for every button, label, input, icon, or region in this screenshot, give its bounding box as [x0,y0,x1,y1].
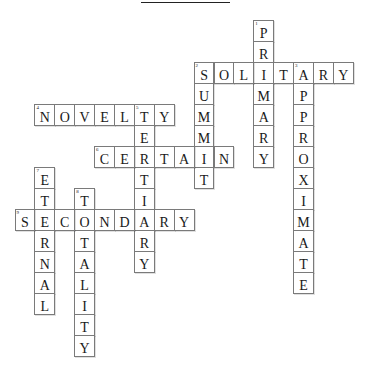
grid-cell[interactable]: E [34,209,55,231]
grid-cell[interactable]: V [74,104,95,126]
grid-cell[interactable]: 9S [15,209,36,231]
grid-cell[interactable]: E [114,146,135,168]
cell-letter: L [234,67,253,83]
cell-letter: L [35,298,54,314]
cell-letter: A [254,109,273,125]
cell-letter: T [294,256,313,272]
grid-cell[interactable]: Y [74,335,95,357]
grid-cell[interactable]: O [293,146,314,168]
grid-cell[interactable]: D [114,209,135,231]
grid-cell[interactable]: R [253,125,274,147]
cell-letter: R [135,151,154,167]
grid-cell[interactable]: 4N [34,104,55,126]
cell-letter: M [195,130,214,146]
cell-letter: S [195,67,214,83]
cell-letter: L [75,277,94,293]
grid-cell[interactable]: U [194,83,215,105]
grid-cell[interactable]: I [74,293,95,315]
grid-cell[interactable]: E [293,272,314,294]
cell-letter: E [294,277,313,293]
grid-cell[interactable]: A [74,251,95,273]
grid-cell[interactable]: O [214,62,235,84]
cell-letter: Y [75,340,94,356]
grid-cell[interactable]: N [94,209,115,231]
cell-letter: E [115,151,134,167]
cell-letter: A [175,151,194,167]
grid-cell[interactable]: N [214,146,235,168]
grid-cell[interactable]: T [273,62,294,84]
grid-cell[interactable]: L [114,104,135,126]
grid-cell[interactable]: X [293,167,314,189]
cell-letter: T [135,172,154,188]
cell-letter: O [55,109,74,125]
grid-cell[interactable]: R [253,41,274,63]
grid-cell[interactable]: R [293,125,314,147]
cell-letter: I [254,67,273,83]
grid-cell[interactable]: C [54,209,75,231]
grid-cell[interactable]: A [253,104,274,126]
grid-cell[interactable]: R [34,230,55,252]
grid-cell[interactable]: R [134,146,155,168]
grid-cell[interactable]: P [293,104,314,126]
grid-cell[interactable]: Y [253,146,274,168]
cell-letter: E [35,214,54,230]
grid-cell[interactable]: R [154,209,175,231]
cell-letter: P [294,88,313,104]
grid-cell[interactable]: 8T [74,188,95,210]
grid-cell[interactable]: Y [333,62,354,84]
cell-letter: I [195,151,214,167]
grid-cell[interactable]: M [194,125,215,147]
grid-cell[interactable]: L [233,62,254,84]
grid-cell[interactable]: M [253,83,274,105]
grid-cell[interactable]: T [293,251,314,273]
cell-letter: M [195,109,214,125]
cell-letter: N [215,151,234,167]
grid-cell[interactable]: T [74,314,95,336]
grid-cell[interactable]: R [134,230,155,252]
cell-letter: A [35,277,54,293]
grid-cell[interactable]: Y [134,251,155,273]
grid-cell[interactable]: I [293,188,314,210]
cell-letter: R [155,214,174,230]
grid-cell[interactable]: O [74,209,95,231]
grid-cell[interactable]: 7E [34,167,55,189]
cell-letter: T [75,319,94,335]
cell-letter: E [35,172,54,188]
grid-cell[interactable]: O [54,104,75,126]
grid-cell[interactable]: L [34,293,55,315]
cell-letter: T [274,67,293,83]
grid-cell[interactable]: A [134,209,155,231]
grid-cell[interactable]: A [34,272,55,294]
grid-cell[interactable]: I [253,62,274,84]
grid-cell[interactable]: M [194,104,215,126]
grid-cell[interactable]: R [313,62,334,84]
grid-cell[interactable]: E [94,104,115,126]
grid-cell[interactable]: A [293,230,314,252]
grid-cell[interactable]: T [134,167,155,189]
cell-letter: M [254,88,273,104]
grid-cell[interactable]: T [34,188,55,210]
grid-cell[interactable]: T [194,167,215,189]
grid-cell[interactable]: N [34,251,55,273]
grid-cell[interactable]: M [293,209,314,231]
grid-cell[interactable]: Y [174,209,195,231]
cell-letter: U [195,88,214,104]
grid-cell[interactable]: 1P [253,20,274,42]
grid-cell[interactable]: A [174,146,195,168]
grid-cell[interactable]: I [134,188,155,210]
grid-cell[interactable]: L [74,272,95,294]
grid-cell[interactable]: I [194,146,215,168]
grid-cell[interactable]: 5T [134,104,155,126]
grid-cell[interactable]: T [154,146,175,168]
grid-cell[interactable]: P [293,83,314,105]
grid-cell[interactable]: 6C [94,146,115,168]
grid-cell[interactable]: E [134,125,155,147]
grid-cell[interactable]: 3A [293,62,314,84]
cell-letter: T [35,193,54,209]
cell-letter: R [294,130,313,146]
cell-letter: A [75,256,94,272]
grid-cell[interactable]: T [74,230,95,252]
grid-cell[interactable]: Y [154,104,175,126]
grid-cell[interactable]: 2S [194,62,215,84]
cell-letter: T [135,109,154,125]
